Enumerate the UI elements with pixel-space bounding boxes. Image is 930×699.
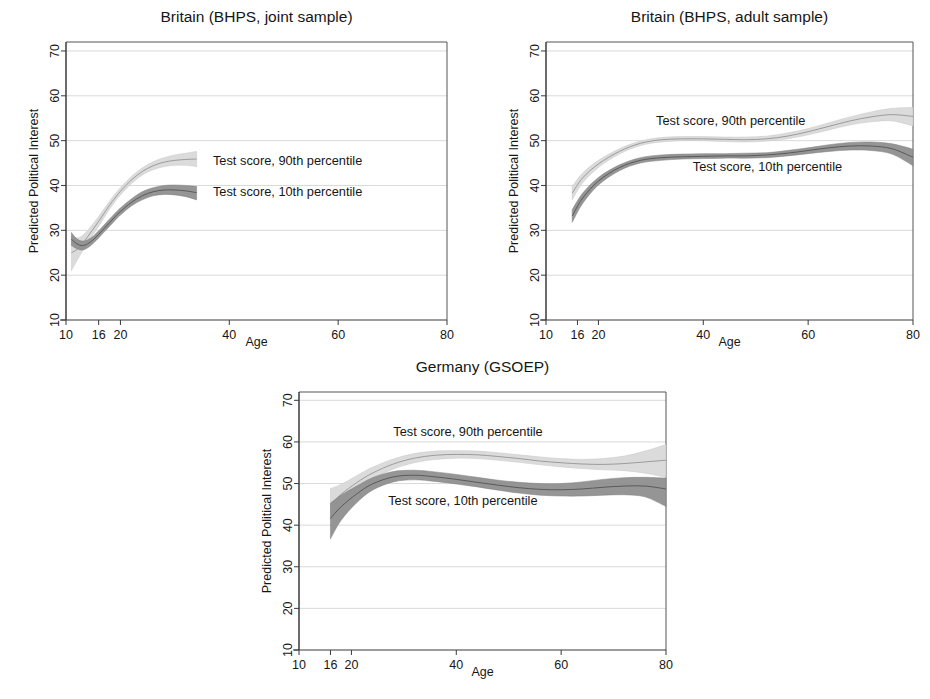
y-axis-label: Predicted Political Interest: [27, 108, 41, 253]
y-tick-label: 40: [528, 178, 542, 192]
x-tick-label: 60: [331, 328, 345, 342]
y-tick-label: 10: [48, 313, 62, 327]
y-tick-label: 50: [48, 134, 62, 148]
y-tick-label: 30: [281, 560, 295, 574]
y-axis-ticks: 10203040506070: [48, 44, 66, 327]
trend-line-10th: [572, 146, 913, 216]
y-tick-label: 30: [48, 223, 62, 237]
panel-title: Germany (GSOEP): [416, 358, 550, 375]
confidence-band-90th: [71, 151, 196, 270]
x-tick-label: 40: [696, 328, 710, 342]
x-tick-label: 60: [801, 328, 815, 342]
x-tick-label: 80: [659, 658, 673, 672]
x-tick-label: 40: [222, 328, 236, 342]
y-tick-label: 20: [281, 601, 295, 615]
y-axis-label: Predicted Political Interest: [507, 108, 521, 253]
y-tick-label: 60: [528, 89, 542, 103]
x-tick-label: 10: [539, 328, 553, 342]
chart-panel-britain-joint: Britain (BHPS, joint sample)101620406080…: [0, 0, 465, 350]
y-tick-label: 30: [528, 223, 542, 237]
y-tick-label: 50: [528, 134, 542, 148]
series-annotation-90th: Test score, 90th percentile: [393, 424, 542, 439]
y-tick-label: 40: [281, 518, 295, 532]
x-tick-label: 20: [591, 328, 605, 342]
panel-title: Britain (BHPS, adult sample): [631, 8, 828, 25]
chart-svg-britain-adult: Britain (BHPS, adult sample)101620406080…: [465, 0, 930, 350]
y-tick-label: 20: [48, 268, 62, 282]
y-tick-label: 40: [48, 178, 62, 192]
y-tick-label: 60: [48, 89, 62, 103]
chart-panel-britain-adult: Britain (BHPS, adult sample)101620406080…: [465, 0, 930, 350]
x-tick-label: 60: [554, 658, 568, 672]
y-tick-label: 10: [281, 643, 295, 657]
y-tick-label: 10: [528, 313, 542, 327]
series-annotation-90th: Test score, 90th percentile: [213, 153, 362, 168]
series-annotation-10th: Test score, 10th percentile: [388, 493, 537, 508]
x-tick-label: 20: [344, 658, 358, 672]
x-tick-label: 80: [906, 328, 920, 342]
x-tick-label: 40: [449, 658, 463, 672]
x-tick-label: 80: [440, 328, 454, 342]
plot-frame: [66, 42, 447, 320]
panel-title: Britain (BHPS, joint sample): [160, 8, 352, 25]
chart-svg-britain-joint: Britain (BHPS, joint sample)101620406080…: [0, 0, 465, 350]
x-tick-label: 10: [59, 328, 73, 342]
x-axis-label: Age: [245, 335, 267, 349]
y-axis-ticks: 10203040506070: [281, 393, 299, 657]
x-axis-label: Age: [471, 665, 493, 679]
chart-svg-germany: Germany (GSOEP)1016204060801020304050607…: [232, 350, 697, 699]
y-tick-label: 20: [528, 268, 542, 282]
y-tick-label: 70: [528, 44, 542, 58]
x-axis-label: Age: [718, 335, 740, 349]
y-tick-label: 70: [281, 393, 295, 407]
y-axis-ticks: 10203040506070: [528, 44, 546, 327]
y-tick-label: 50: [281, 477, 295, 491]
y-tick-label: 60: [281, 435, 295, 449]
x-tick-label: 10: [292, 658, 306, 672]
confidence-band-10th: [71, 185, 196, 250]
series-annotation-90th: Test score, 90th percentile: [656, 113, 805, 128]
y-tick-label: 70: [48, 44, 62, 58]
chart-panel-germany: Germany (GSOEP)1016204060801020304050607…: [232, 350, 697, 699]
series-annotation-10th: Test score, 10th percentile: [693, 159, 842, 174]
x-tick-label: 20: [113, 328, 127, 342]
x-tick-label: 16: [324, 658, 338, 672]
series-annotation-10th: Test score, 10th percentile: [213, 184, 362, 199]
x-tick-label: 16: [92, 328, 106, 342]
confidence-band-10th: [572, 142, 913, 222]
x-tick-label: 16: [571, 328, 585, 342]
y-axis-label: Predicted Political Interest: [260, 448, 274, 593]
